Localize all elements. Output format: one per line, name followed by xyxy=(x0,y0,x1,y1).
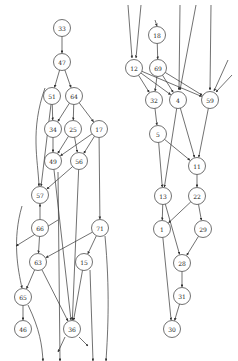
node-12: 12 xyxy=(126,60,143,77)
node-label: 32 xyxy=(150,97,158,104)
node-4: 4 xyxy=(170,92,187,109)
node-label: 69 xyxy=(154,65,162,72)
dangling-edge xyxy=(210,5,211,90)
node-label: 4 xyxy=(176,97,180,104)
node-label: 18 xyxy=(153,32,161,39)
node-label: 64 xyxy=(70,93,78,100)
node-65: 65 xyxy=(15,289,32,306)
node-label: 1 xyxy=(160,226,164,233)
node-label: 71 xyxy=(96,225,104,232)
node-29: 29 xyxy=(195,221,212,238)
node-31: 31 xyxy=(174,288,191,305)
dangling-edge xyxy=(79,337,88,346)
dangling-edge xyxy=(180,5,196,90)
node-label: 12 xyxy=(130,65,138,72)
dangling-edge xyxy=(179,5,180,90)
edge-5-to-13 xyxy=(159,142,163,187)
edge-22-to-29 xyxy=(199,204,202,220)
node-label: 29 xyxy=(199,226,207,233)
node-22: 22 xyxy=(189,188,206,205)
node-11: 11 xyxy=(189,158,206,175)
node-30: 30 xyxy=(164,321,181,338)
node-label: 46 xyxy=(19,326,27,333)
node-17: 17 xyxy=(91,121,108,138)
edge-71-to-15 xyxy=(88,236,97,254)
node-71: 71 xyxy=(92,220,109,237)
node-25: 25 xyxy=(65,121,82,138)
node-66: 66 xyxy=(32,220,49,237)
node-label: 34 xyxy=(49,126,57,133)
node-49: 49 xyxy=(45,153,62,170)
dangling-edge xyxy=(128,5,132,58)
edge-5-to-11 xyxy=(165,139,190,160)
dangling-edge xyxy=(17,206,22,288)
edge-32-to-5 xyxy=(155,108,157,125)
node-layer: 3347516434251749565766716315654636181269… xyxy=(15,20,219,338)
node-label: 5 xyxy=(156,131,160,138)
edge-56-to-57 xyxy=(47,167,73,190)
edge-59-to-11 xyxy=(199,108,209,157)
node-label: 36 xyxy=(68,326,76,333)
node-label: 51 xyxy=(48,93,56,100)
node-32: 32 xyxy=(146,92,163,109)
node-34: 34 xyxy=(45,121,62,138)
edge-63-to-65 xyxy=(27,270,35,289)
node-label: 13 xyxy=(159,193,167,200)
dangling-edge xyxy=(105,236,108,361)
node-label: 17 xyxy=(95,126,103,133)
node-label: 65 xyxy=(19,294,27,301)
node-label: 59 xyxy=(206,97,214,104)
node-1: 1 xyxy=(154,221,171,238)
node-64: 64 xyxy=(66,88,83,105)
node-label: 49 xyxy=(49,158,57,165)
node-label: 31 xyxy=(178,293,186,300)
edge-17-to-71 xyxy=(99,137,100,219)
node-13: 13 xyxy=(155,188,172,205)
node-label: 28 xyxy=(178,260,186,267)
node-59: 59 xyxy=(202,92,219,109)
dangling-edge xyxy=(36,88,45,186)
node-33: 33 xyxy=(54,20,71,37)
node-label: 57 xyxy=(36,192,44,199)
node-51: 51 xyxy=(44,88,61,105)
node-57: 57 xyxy=(32,187,49,204)
node-label: 63 xyxy=(34,259,42,266)
node-label: 25 xyxy=(69,126,77,133)
edge-47-to-51 xyxy=(55,70,60,87)
node-36: 36 xyxy=(64,321,81,338)
node-label: 11 xyxy=(193,163,201,170)
node-56: 56 xyxy=(71,153,88,170)
node-label: 66 xyxy=(36,225,44,232)
node-15: 15 xyxy=(76,254,93,271)
node-63: 63 xyxy=(30,254,47,271)
edge-1-to-30 xyxy=(163,237,171,320)
edge-66-to-63 xyxy=(39,236,40,253)
edge-64-to-34 xyxy=(58,103,70,121)
node-18: 18 xyxy=(149,27,166,44)
node-label: 33 xyxy=(58,25,66,32)
edge-49-to-36 xyxy=(54,169,71,320)
dangling-edge xyxy=(216,75,232,92)
node-69: 69 xyxy=(150,60,167,77)
edge-15-to-36 xyxy=(74,270,83,320)
node-label: 15 xyxy=(80,259,88,266)
dangling-edge xyxy=(155,20,157,26)
edge-47-to-64 xyxy=(65,70,71,87)
node-47: 47 xyxy=(54,54,71,71)
dangling-edge xyxy=(90,270,93,361)
graph-canvas: 3347516434251749565766716315654636181269… xyxy=(0,0,238,361)
dangling-edge xyxy=(58,337,65,352)
node-label: 22 xyxy=(193,193,201,200)
edge-31-to-30 xyxy=(175,304,180,320)
edge-29-to-28 xyxy=(187,236,199,255)
edge-64-to-17 xyxy=(79,103,93,122)
dangling-edge-layer xyxy=(16,5,232,361)
edge-4-to-11 xyxy=(180,108,194,157)
edge-51-to-57 xyxy=(41,104,51,186)
node-label: 56 xyxy=(75,158,83,165)
node-5: 5 xyxy=(150,126,167,143)
node-label: 30 xyxy=(168,326,176,333)
node-label: 47 xyxy=(58,59,66,66)
edge-63-to-36 xyxy=(42,270,68,321)
edge-layer xyxy=(23,37,208,321)
